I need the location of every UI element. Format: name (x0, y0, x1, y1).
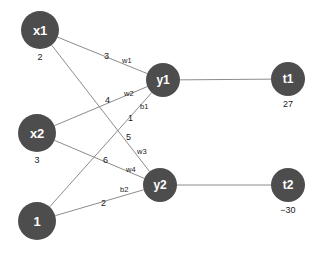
node-t1[interactable]: t1 (271, 62, 305, 96)
edge-label-lbl-4: 4 (105, 96, 110, 105)
edge-label-lbl-w3: w3 (137, 148, 147, 156)
edge-y1-t1 (180, 79, 271, 80)
node-value-t2: −30 (258, 206, 318, 215)
edge-x1-y1 (58, 37, 148, 73)
node-y2[interactable]: y2 (143, 168, 177, 202)
node-y1[interactable]: y1 (146, 63, 180, 97)
edge-label-lbl-w1: w1 (122, 57, 132, 65)
edge-label-lbl-3: 3 (104, 52, 109, 61)
neural-network-diagram: x12x231y1y2t127t2−30 3w14w2b115w36w4b22 (0, 0, 319, 262)
edge-x1-y2 (52, 45, 150, 172)
edge-label-lbl-w4: w4 (126, 166, 136, 174)
node-label-y2: y2 (154, 179, 167, 191)
node-x2[interactable]: x2 (18, 114, 56, 152)
edge-label-lbl-6: 6 (103, 156, 108, 165)
edge-label-lbl-1: 1 (128, 114, 133, 123)
node-label-y1: y1 (157, 74, 170, 86)
node-value-x1: 2 (10, 53, 70, 62)
edge-label-lbl-w2: w2 (124, 90, 134, 98)
edge-label-lbl-b1: b1 (140, 103, 148, 111)
node-b[interactable]: 1 (18, 202, 56, 240)
node-t2[interactable]: t2 (271, 168, 305, 202)
node-value-x2: 3 (7, 156, 67, 165)
node-label-x1: x1 (33, 24, 47, 37)
node-label-b: 1 (33, 215, 40, 228)
edge-label-lbl-5: 5 (126, 133, 131, 142)
edge-b-y2 (55, 190, 143, 216)
node-x1[interactable]: x1 (21, 11, 59, 49)
node-label-x2: x2 (30, 127, 44, 140)
node-label-t1: t1 (283, 73, 293, 85)
node-value-t1: 27 (258, 100, 318, 109)
node-label-t2: t2 (283, 179, 293, 191)
edge-label-lbl-b2: b2 (120, 186, 128, 194)
edge-label-lbl-2: 2 (101, 199, 106, 208)
